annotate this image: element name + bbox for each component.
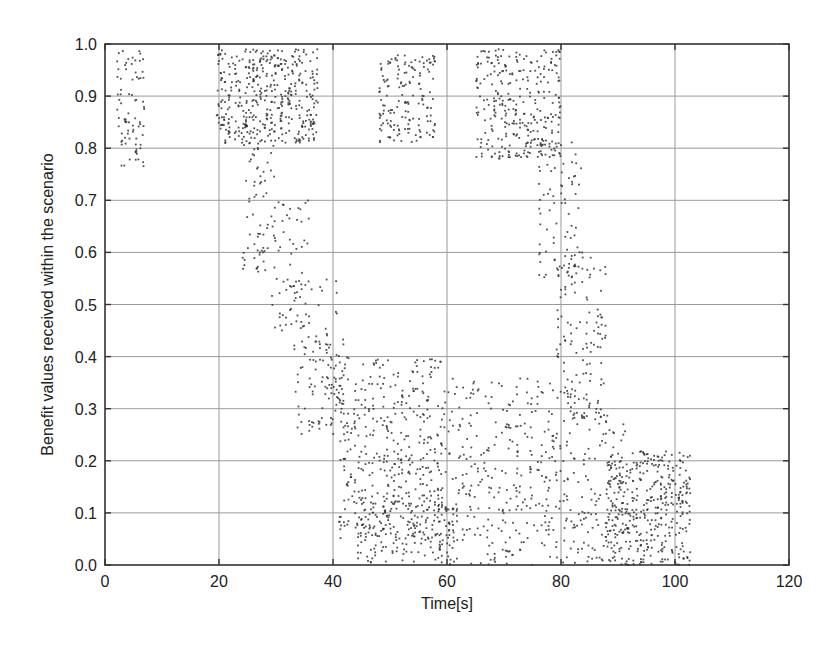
data-point [453,532,455,534]
data-point [570,237,572,239]
data-point [358,517,360,519]
data-point [259,120,261,122]
data-point [512,522,514,524]
data-point [301,107,303,109]
data-point [682,500,684,502]
data-point [623,495,625,497]
data-point [664,454,666,456]
data-point [493,105,495,107]
data-point [272,226,274,228]
data-point [301,321,303,323]
data-point [600,416,602,418]
data-point [336,292,338,294]
data-point [259,77,261,79]
data-point [577,548,579,550]
data-point [682,528,684,530]
data-point [481,153,483,155]
data-point [403,553,405,555]
data-point [594,493,596,495]
data-point [347,451,349,453]
data-point [297,49,299,51]
data-point [399,538,401,540]
data-point [138,78,140,80]
data-point [242,110,244,112]
data-point [272,304,274,306]
data-point [249,161,251,163]
data-point [472,389,474,391]
data-point [139,53,141,55]
data-point [423,442,425,444]
data-point [671,502,673,504]
data-point [590,373,592,375]
data-point [449,544,451,546]
data-point [608,559,610,561]
data-point [672,470,674,472]
data-point [620,482,622,484]
data-point [614,461,616,463]
data-point [626,470,628,472]
data-point [548,429,550,431]
data-point [284,75,286,77]
data-point [404,72,406,74]
data-point [488,545,490,547]
data-point [493,497,495,499]
data-point [605,536,607,538]
data-point [388,110,390,112]
data-point [274,89,276,91]
data-point [422,474,424,476]
data-point [527,402,529,404]
data-point [304,408,306,410]
data-point [566,518,568,520]
data-point [462,446,464,448]
data-point [488,507,490,509]
data-point [425,467,427,469]
data-point [570,394,572,396]
data-point [277,57,279,59]
data-point [342,339,344,341]
data-point [298,406,300,408]
data-point [297,374,299,376]
data-point [360,519,362,521]
data-point [299,60,301,62]
data-point [577,481,579,483]
data-point [578,398,580,400]
data-point [402,517,404,519]
data-point [629,469,631,471]
data-point [300,327,302,329]
data-point [371,383,373,385]
data-point [483,99,485,101]
data-point [549,143,551,145]
data-point [559,153,561,155]
data-point [676,522,678,524]
data-point [416,388,418,390]
data-point [433,58,435,60]
data-point [667,559,669,561]
data-point [350,474,352,476]
data-point [332,418,334,420]
data-point [270,86,272,88]
data-point [526,55,528,57]
data-point [389,125,391,127]
data-point [539,110,541,112]
data-point [478,508,480,510]
data-point [348,357,350,359]
data-point [372,512,374,514]
data-point [264,141,266,143]
data-point [523,113,525,115]
data-point [473,393,475,395]
data-point [688,488,690,490]
data-point [596,519,598,521]
data-point [630,545,632,547]
data-point [624,491,626,493]
data-point [660,498,662,500]
data-point [562,562,564,564]
data-point [378,535,380,537]
data-point [661,457,663,459]
data-point [531,397,533,399]
data-point [278,250,280,252]
data-point [414,532,416,534]
data-point [595,513,597,515]
data-point [368,462,370,464]
data-point [486,143,488,145]
data-point [256,69,258,71]
